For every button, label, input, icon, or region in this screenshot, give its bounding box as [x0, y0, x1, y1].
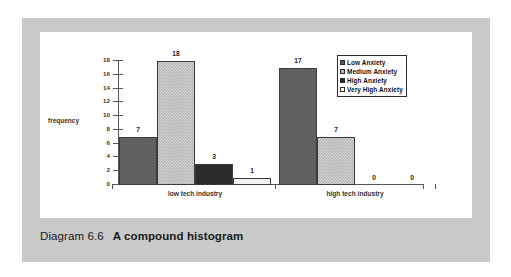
- caption-number: Diagram 6.6: [40, 230, 104, 242]
- bar: [317, 137, 355, 185]
- legend-item: High Anxiety: [340, 76, 403, 85]
- legend-item: Medium Anxiety: [340, 67, 403, 76]
- x-axis-group-label: low tech industry: [119, 190, 271, 197]
- bar-value-label: 1: [233, 168, 271, 175]
- figure-panel: frequency 024681012141618 7183117700 low…: [22, 18, 490, 262]
- bar-value-label: 3: [195, 154, 233, 161]
- legend-swatch-icon: [340, 78, 345, 83]
- legend-item-label: Low Anxiety: [347, 59, 386, 66]
- chart-legend: Low AnxietyMedium AnxietyHigh AnxietyVer…: [337, 55, 407, 97]
- compound-histogram-chart: frequency 024681012141618 7183117700 low…: [40, 32, 472, 218]
- bar: [195, 164, 233, 185]
- caption-title: A compound histogram: [113, 230, 244, 242]
- legend-item: Very High Anxiety: [340, 85, 403, 94]
- bar: [279, 68, 317, 185]
- bar-value-label: 7: [119, 127, 157, 134]
- bar-value-label: 0: [393, 175, 431, 182]
- bar-value-label: 0: [355, 175, 393, 182]
- legend-item: Low Anxiety: [340, 58, 403, 67]
- legend-item-label: Very High Anxiety: [347, 86, 403, 93]
- bar: [119, 137, 157, 185]
- bar-value-label: 17: [279, 58, 317, 65]
- legend-swatch-icon: [340, 60, 345, 65]
- legend-swatch-icon: [340, 69, 345, 74]
- plot-canvas: frequency 024681012141618 7183117700 low…: [40, 32, 472, 218]
- bars-layer: [40, 32, 472, 185]
- legend-swatch-icon: [340, 87, 345, 92]
- figure-caption: Diagram 6.6A compound histogram: [40, 230, 472, 254]
- bar-value-label: 7: [317, 127, 355, 134]
- bar-value-label: 18: [157, 51, 195, 58]
- legend-item-label: High Anxiety: [347, 77, 387, 84]
- bar: [157, 61, 195, 185]
- bar: [233, 178, 271, 185]
- x-axis-group-label: high tech industry: [279, 190, 431, 197]
- legend-item-label: Medium Anxiety: [347, 68, 397, 75]
